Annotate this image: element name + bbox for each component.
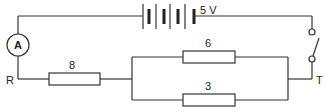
resistor-series-icon: [49, 73, 100, 85]
battery-voltage-label: 5 V: [200, 4, 217, 16]
circuit-diagram: 5 V T A R 8 6 3: [0, 0, 326, 112]
battery-icon: [143, 4, 194, 29]
resistor-parallel-bottom-icon: [183, 94, 235, 106]
ammeter-label: A: [14, 39, 22, 51]
resistor-parallel-top-label: 6: [205, 37, 211, 49]
resistor-parallel-top-icon: [183, 51, 235, 63]
resistor-parallel-bottom-label: 3: [205, 80, 211, 92]
switch-icon[interactable]: [309, 29, 319, 62]
resistor-series-label: 8: [69, 59, 75, 71]
terminal-t-label: T: [316, 74, 323, 86]
terminal-r-label: R: [6, 74, 14, 86]
